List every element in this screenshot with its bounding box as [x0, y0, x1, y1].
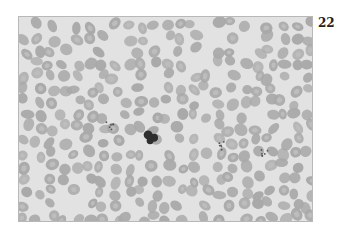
blood-smear-micrograph	[18, 16, 313, 222]
micrograph-image	[19, 17, 312, 221]
figure-number: 22	[318, 16, 335, 30]
